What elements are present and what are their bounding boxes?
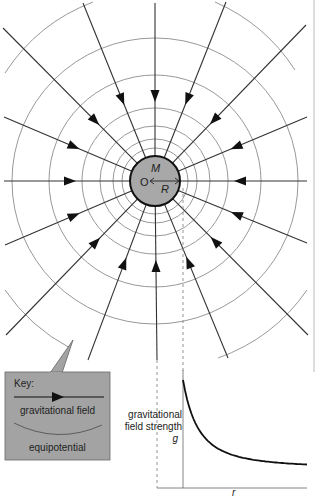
field-line (178, 117, 307, 171)
field-arrowhead-icon (151, 90, 160, 102)
field-arrowhead-icon (116, 92, 125, 105)
field-line (178, 190, 307, 243)
field-arrowhead-icon (185, 92, 194, 105)
key-box: Key: gravitational field equipotential (5, 340, 110, 460)
key-pointer (50, 340, 73, 373)
graph-ylabel-line1: gravitational (128, 409, 182, 420)
field-line (164, 2, 226, 158)
field-arrowhead-icon (231, 212, 244, 221)
radius-label: R (161, 183, 169, 195)
field-arrowhead-icon (152, 260, 161, 272)
field-line (4, 117, 132, 171)
key-equipotential-label: equipotential (29, 442, 86, 453)
graph-ylabel-symbol: g (172, 433, 178, 444)
field-line (155, 206, 157, 360)
center-label: O (140, 176, 149, 188)
field-line (165, 204, 228, 358)
key-field-label: gravitational field (20, 405, 95, 416)
field-arrowhead-icon (186, 257, 195, 270)
field-strength-curve (183, 380, 307, 465)
field-strength-graph: gravitational field strength g r (125, 370, 307, 497)
key-title: Key: (14, 378, 34, 389)
field-line (5, 191, 132, 245)
field-arrowhead-icon (67, 213, 80, 222)
field-arrowhead-icon (67, 140, 80, 149)
outer-equipotential-arc-left (5, 2, 93, 73)
field-arrowhead-icon (234, 177, 246, 186)
field-arrowhead-icon (64, 177, 76, 186)
gravitational-field-diagram: M O R Key: gravitational field equipoten… (0, 0, 317, 497)
outer-equipotential-arc-right (215, 2, 295, 70)
graph-xlabel: r (232, 487, 236, 497)
outer-equipotential-arc-bottom-right (218, 290, 307, 358)
field-line (88, 204, 146, 360)
graph-ylabel-line2: field strength (125, 421, 182, 432)
field-arrowhead-icon (231, 140, 244, 149)
outer-equipotential-arc-bottom-left (5, 290, 70, 348)
mass-label: M (151, 162, 161, 174)
field-line (83, 3, 146, 158)
field-arrowhead-icon (118, 258, 126, 271)
